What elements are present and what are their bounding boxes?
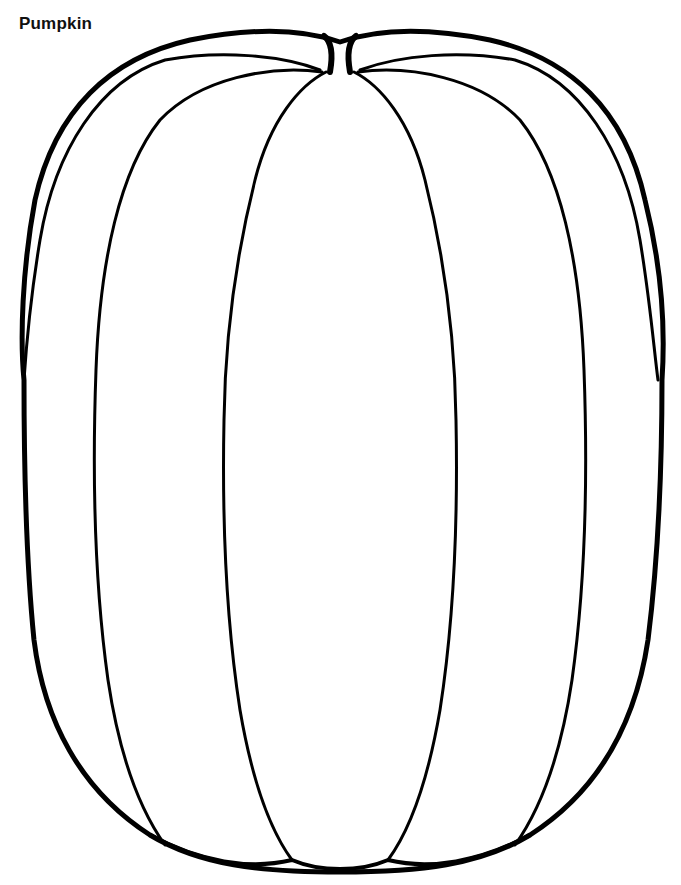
segment-right-inner: [354, 72, 456, 860]
bottom-scallops: [150, 835, 530, 869]
segment-left-inner: [224, 72, 326, 860]
segment-left-outer: [94, 70, 322, 845]
segment-right-outer: [358, 70, 586, 845]
segment-right-back: [360, 55, 658, 380]
pumpkin-illustration: [0, 0, 681, 885]
pumpkin-outer-outline: [22, 31, 663, 872]
segment-left-back: [24, 55, 320, 380]
